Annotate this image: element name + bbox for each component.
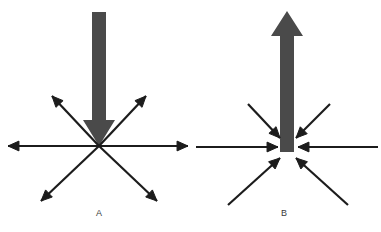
panel-label-a: A	[96, 208, 102, 218]
figure-background	[0, 0, 381, 232]
panel-label-b: B	[281, 208, 287, 218]
figure-canvas: A B	[0, 0, 381, 232]
force-diagram-figure: A B	[0, 0, 381, 232]
